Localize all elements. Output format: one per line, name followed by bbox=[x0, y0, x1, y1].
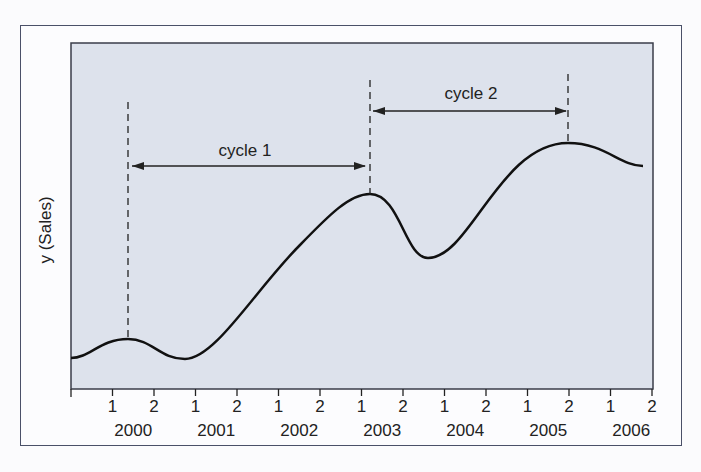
x-axis: 1212121212121220002001200220032004200520… bbox=[71, 389, 657, 440]
x-tick-label: 1 bbox=[440, 397, 449, 416]
year-label: 2000 bbox=[114, 421, 152, 440]
x-tick-label: 2 bbox=[564, 397, 573, 416]
plot-area bbox=[71, 43, 653, 389]
year-label: 2004 bbox=[446, 421, 484, 440]
year-label: 2002 bbox=[280, 421, 318, 440]
x-tick-label: 2 bbox=[647, 397, 656, 416]
year-label: 2001 bbox=[197, 421, 235, 440]
x-tick-label: 1 bbox=[191, 397, 200, 416]
x-tick-label: 1 bbox=[108, 397, 117, 416]
x-tick-label: 2 bbox=[315, 397, 324, 416]
x-tick-label: 1 bbox=[274, 397, 283, 416]
x-tick-label: 2 bbox=[398, 397, 407, 416]
x-tick-label: 2 bbox=[149, 397, 158, 416]
year-label: 2006 bbox=[612, 421, 650, 440]
x-tick-label: 1 bbox=[606, 397, 615, 416]
year-label: 2003 bbox=[363, 421, 401, 440]
cycle-2-label: cycle 2 bbox=[445, 84, 498, 103]
x-tick-label: 1 bbox=[523, 397, 532, 416]
x-tick-label: 2 bbox=[481, 397, 490, 416]
x-tick-label: 2 bbox=[232, 397, 241, 416]
cycle-1-label: cycle 1 bbox=[219, 141, 272, 160]
y-axis-label: y (Sales) bbox=[36, 196, 55, 263]
cycle-chart: cycle 1 cycle 2 y (Sales) 12121212121212… bbox=[0, 0, 701, 472]
year-label: 2005 bbox=[529, 421, 567, 440]
x-tick-label: 1 bbox=[357, 397, 366, 416]
